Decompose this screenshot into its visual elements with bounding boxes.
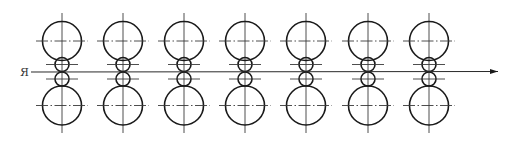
entry-label: Я <box>20 66 29 79</box>
roll-stand-4 <box>219 13 271 133</box>
roll-stand-3 <box>158 13 210 133</box>
strip-arrow <box>31 72 498 73</box>
roll-stand-2 <box>97 13 149 133</box>
roll-stand-5 <box>280 13 332 133</box>
roll-stand-1 <box>36 13 88 133</box>
rolling-mill-diagram: Я <box>0 0 518 142</box>
roll-stand-7 <box>403 13 455 133</box>
roll-stand-6 <box>342 13 394 133</box>
roll-stands <box>36 13 455 133</box>
